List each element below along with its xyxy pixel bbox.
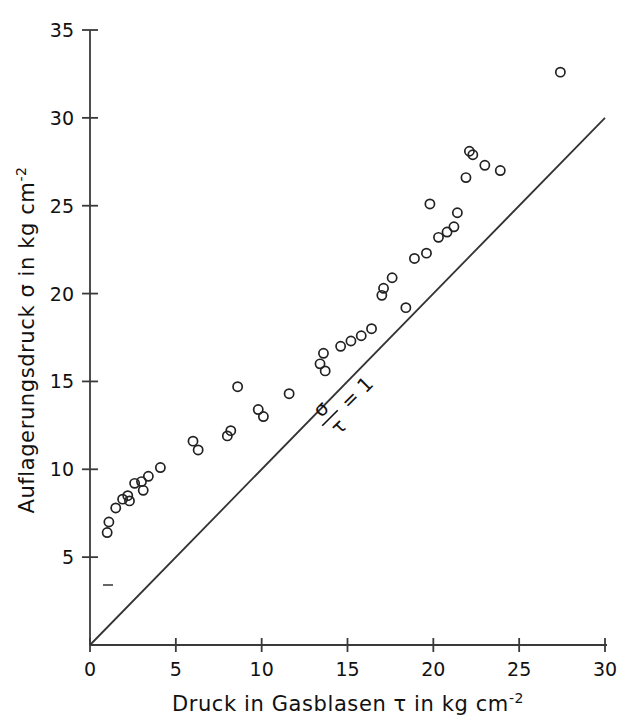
y-tick-label: 35 xyxy=(50,19,74,41)
reference-line-sigma-tau xyxy=(90,118,605,645)
x-tick-label: 30 xyxy=(593,658,617,680)
ratio-annotation: σ τ = 1 xyxy=(305,362,386,443)
data-point-group xyxy=(103,68,565,538)
data-point xyxy=(346,336,355,345)
data-point xyxy=(453,208,462,217)
data-point xyxy=(194,445,203,454)
y-tick-label: 15 xyxy=(50,370,74,392)
x-tick-label: 25 xyxy=(507,658,531,680)
y-tick-label: 20 xyxy=(50,283,74,305)
x-tick-label: 10 xyxy=(250,658,274,680)
data-point xyxy=(319,349,328,358)
scatter-figure: 051015202530 5101520253035 σ τ = 1 Druck… xyxy=(0,0,635,728)
y-tick-label: 5 xyxy=(62,546,74,568)
data-point xyxy=(422,249,431,258)
y-axis-title: Auflagerungsdruck σ in kg cm-2 xyxy=(13,166,39,513)
x-tick-label: 0 xyxy=(84,658,96,680)
x-axis-title-exponent: -2 xyxy=(509,690,524,706)
data-point xyxy=(449,222,458,231)
x-tick-label: 20 xyxy=(421,658,445,680)
data-point xyxy=(144,472,153,481)
data-point xyxy=(285,389,294,398)
data-point xyxy=(461,173,470,182)
data-point xyxy=(556,68,565,77)
data-point xyxy=(357,331,366,340)
data-point xyxy=(188,437,197,446)
data-point xyxy=(233,382,242,391)
data-point xyxy=(111,503,120,512)
x-axis-title: Druck in Gasblasen τ in kg cm-2 xyxy=(172,690,524,716)
x-tick-label: 5 xyxy=(170,658,182,680)
x-tick-label: 15 xyxy=(335,658,359,680)
data-point xyxy=(401,303,410,312)
y-axis-title-text: Auflagerungsdruck σ in kg cm xyxy=(15,182,39,514)
reference-line-group xyxy=(90,118,605,645)
y-tick-label: 30 xyxy=(50,107,74,129)
data-point xyxy=(139,486,148,495)
x-axis-title-text: Druck in Gasblasen τ in kg cm xyxy=(172,692,509,716)
data-point xyxy=(367,324,376,333)
data-point xyxy=(425,199,434,208)
data-point xyxy=(388,273,397,282)
plot-canvas: 051015202530 5101520253035 σ τ = 1 Druck… xyxy=(0,0,635,728)
data-point xyxy=(103,528,112,537)
data-point xyxy=(104,517,113,526)
data-point xyxy=(336,342,345,351)
ratio-equals-one: = 1 xyxy=(336,371,378,413)
y-tick-label: 25 xyxy=(50,195,74,217)
data-point xyxy=(410,254,419,263)
data-point xyxy=(259,412,268,421)
y-axis-title-exponent: -2 xyxy=(13,166,29,181)
data-point xyxy=(496,166,505,175)
data-point xyxy=(480,161,489,170)
data-point xyxy=(156,463,165,472)
ratio-denominator: τ xyxy=(326,414,351,439)
y-tick-label: 10 xyxy=(50,458,74,480)
data-point xyxy=(321,366,330,375)
data-point xyxy=(434,233,443,242)
